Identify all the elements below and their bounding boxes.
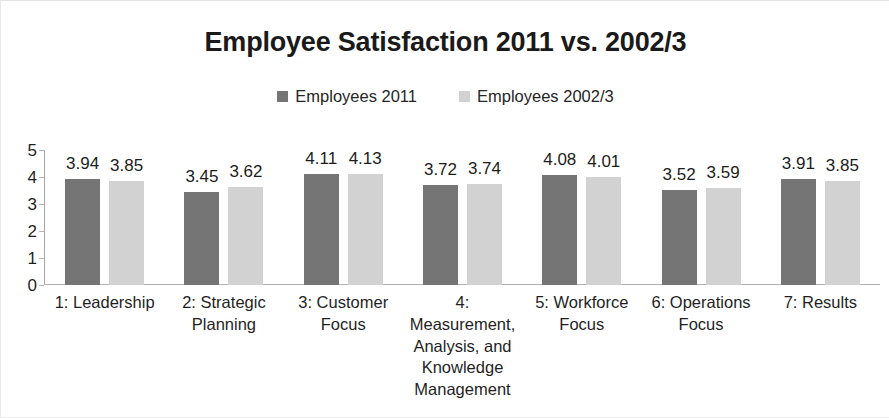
bar-group: 3.723.74: [403, 150, 522, 285]
bar-value-label: 4.08: [543, 151, 576, 168]
bar-value-label: 4.13: [349, 150, 382, 167]
bar-slot: 3.62: [228, 150, 263, 285]
y-axis-tick-2: 2: [28, 223, 37, 240]
y-axis-tickmark-0: [39, 285, 44, 286]
x-axis-category-label: 5: Workforce Focus: [522, 292, 641, 336]
bar[interactable]: 3.59: [706, 188, 741, 285]
x-axis-category-label: 3: Customer Focus: [284, 292, 403, 336]
bar[interactable]: 4.11: [304, 174, 339, 285]
bar-slot: 3.52: [662, 150, 697, 285]
bar-group: 3.943.85: [45, 150, 164, 285]
bar-value-label: 3.85: [110, 157, 143, 174]
bar-value-label: 3.94: [66, 155, 99, 172]
x-axis-category-label: 2: Strategic Planning: [164, 292, 283, 336]
y-axis-tickmark-4: [39, 177, 44, 178]
legend-label-employees-2002-3: Employees 2002/3: [477, 87, 614, 106]
legend-item-employees-2011[interactable]: Employees 2011: [277, 87, 417, 106]
y-axis-tick-4: 4: [28, 169, 37, 186]
bar-slot: 4.11: [304, 150, 339, 285]
bar-slot: 3.85: [825, 150, 860, 285]
bar[interactable]: 3.62: [228, 187, 263, 285]
bar-value-label: 3.62: [229, 163, 262, 180]
bar[interactable]: 3.85: [825, 181, 860, 285]
bar-value-label: 4.01: [587, 153, 620, 170]
y-axis-tick-3: 3: [28, 196, 37, 213]
bar[interactable]: 3.72: [423, 185, 458, 285]
bar-value-label: 4.11: [305, 150, 337, 167]
bar-value-label: 3.52: [663, 166, 696, 183]
bar[interactable]: 3.52: [662, 190, 697, 285]
x-axis-category-label: 1: Leadership: [45, 292, 164, 314]
bar-slot: 3.94: [65, 150, 100, 285]
y-axis-tick-0: 0: [28, 277, 37, 294]
bar-slot: 4.01: [586, 150, 621, 285]
bar-slot: 4.13: [348, 150, 383, 285]
legend-item-employees-2002-3[interactable]: Employees 2002/3: [459, 87, 614, 106]
bar-slot: 3.72: [423, 150, 458, 285]
y-axis-tick-1: 1: [28, 250, 37, 267]
legend-swatch-icon-employees-2002-3: [459, 91, 470, 102]
bar[interactable]: 3.74: [467, 184, 502, 285]
bar-value-label: 3.91: [782, 155, 815, 172]
y-axis-tickmark-2: [39, 231, 44, 232]
bar-group: 4.114.13: [284, 150, 403, 285]
bar[interactable]: 3.91: [781, 179, 816, 285]
chart-container: Employee Satisfaction 2011 vs. 2002/3 Em…: [0, 0, 889, 418]
bar-slot: 3.45: [184, 150, 219, 285]
bar-slot: 3.74: [467, 150, 502, 285]
bar[interactable]: 4.01: [586, 177, 621, 285]
bar-slot: 3.91: [781, 150, 816, 285]
bar-value-label: 3.72: [424, 161, 457, 178]
bar-group: 3.453.62: [164, 150, 283, 285]
bar[interactable]: 3.45: [184, 192, 219, 285]
chart-title: Employee Satisfaction 2011 vs. 2002/3: [1, 27, 889, 58]
chart-legend: Employees 2011 Employees 2002/3: [1, 87, 889, 106]
bar-value-label: 3.74: [468, 160, 501, 177]
y-axis-tickmark-1: [39, 258, 44, 259]
x-axis-category-label: 6: Operations Focus: [641, 292, 760, 336]
bar[interactable]: 4.13: [348, 174, 383, 286]
bar-slot: 4.08: [542, 150, 577, 285]
y-axis-tick-5: 5: [28, 142, 37, 159]
y-axis-tick-labels: 543210: [15, 140, 37, 295]
bar-slot: 3.59: [706, 150, 741, 285]
y-axis-tickmark-5: [39, 150, 44, 151]
bar-slot: 3.85: [109, 150, 144, 285]
bar-group: 3.523.59: [641, 150, 760, 285]
bar-value-label: 3.85: [826, 157, 859, 174]
bar-group: 3.913.85: [761, 150, 880, 285]
x-axis-category-label: 4: Measurement, Analysis, and Knowledge …: [403, 292, 522, 401]
legend-label-employees-2011: Employees 2011: [295, 87, 417, 106]
bar[interactable]: 3.94: [65, 179, 100, 285]
bar-value-label: 3.45: [185, 168, 218, 185]
bar-value-label: 3.59: [707, 164, 740, 181]
bar-group: 4.084.01: [522, 150, 641, 285]
legend-swatch-icon-employees-2011: [277, 91, 288, 102]
bar[interactable]: 3.85: [109, 181, 144, 285]
bar[interactable]: 4.08: [542, 175, 577, 285]
y-axis-tickmark-3: [39, 204, 44, 205]
bar-groups: 3.943.853.453.624.114.133.723.744.084.01…: [45, 150, 880, 285]
x-axis-category-labels: 1: Leadership2: Strategic Planning3: Cus…: [45, 292, 880, 401]
x-axis-category-label: 7: Results: [761, 292, 880, 314]
